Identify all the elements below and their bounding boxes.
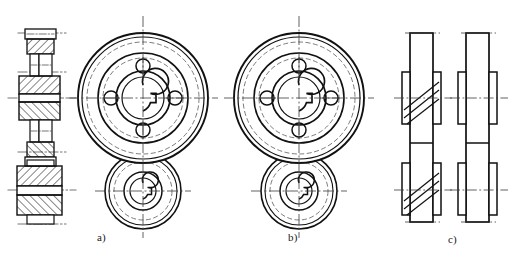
section-hub-flange-top [19, 76, 60, 94]
section-lower-pulley [17, 160, 62, 224]
section-rim-bot-hatched [27, 142, 54, 157]
section-hub-flange-bottom [19, 102, 60, 120]
technical-drawing-canvas [0, 0, 524, 257]
section-shaft-band-upper [19, 94, 60, 102]
section-low-rim-top-outer [27, 160, 54, 166]
right-profile-lower-pad-right [489, 163, 497, 215]
right-profile-body [466, 33, 489, 222]
section-rim-top-hatched [27, 39, 54, 54]
section-low-rim-bot-outer [27, 215, 54, 224]
caption-b: b) [288, 231, 298, 243]
caption-a: a) [97, 231, 106, 243]
left-profile-lower-pad-right [433, 163, 441, 215]
section-low-hub-top [17, 166, 62, 186]
caption-c: c) [448, 233, 457, 245]
right-profile-lower-pad-left [458, 163, 466, 215]
drawing-sheet: a) b) c) [0, 0, 524, 257]
section-low-hub-bot [17, 195, 62, 215]
section-low-shaft-band [17, 186, 62, 195]
